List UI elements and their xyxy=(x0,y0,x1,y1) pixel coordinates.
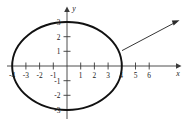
y-axis-arrowhead xyxy=(64,7,70,13)
x-tick-labels: -4 -3 -2 -1 1 2 3 4 5 6 xyxy=(9,71,151,80)
y-tick-label--1: -1 xyxy=(54,77,60,86)
tangent-ray xyxy=(122,20,180,50)
x-tick-label--2: -2 xyxy=(37,71,43,80)
x-tick-label-4: 4 xyxy=(119,71,123,80)
ray-line xyxy=(122,22,177,51)
coordinate-plane-svg: -4 -3 -2 -1 1 2 3 4 5 6 3 2 1 -1 -2 -3 x… xyxy=(0,0,193,125)
x-tick-label-2: 2 xyxy=(93,71,97,80)
x-axis-label: x xyxy=(175,69,180,78)
y-axis-label: y xyxy=(71,4,76,13)
x-tick-label-1: 1 xyxy=(79,71,83,80)
x-axis-arrowhead xyxy=(176,63,182,69)
y-axis xyxy=(64,7,70,120)
x-tick-label-5: 5 xyxy=(134,71,138,80)
graph-figure: -4 -3 -2 -1 1 2 3 4 5 6 3 2 1 -1 -2 -3 x… xyxy=(0,0,193,125)
y-tick-label-1: 1 xyxy=(57,47,61,56)
x-tick-label--3: -3 xyxy=(23,71,29,80)
y-tick-label--3: -3 xyxy=(54,106,60,115)
x-tick-label-3: 3 xyxy=(106,71,110,80)
y-tick-label--2: -2 xyxy=(54,91,60,100)
x-tick-label--4: -4 xyxy=(9,71,15,80)
ray-arrowhead xyxy=(172,20,180,25)
x-tick-label-6: 6 xyxy=(147,71,151,80)
y-tick-label-3: 3 xyxy=(57,18,61,27)
y-tick-label-2: 2 xyxy=(57,33,61,42)
